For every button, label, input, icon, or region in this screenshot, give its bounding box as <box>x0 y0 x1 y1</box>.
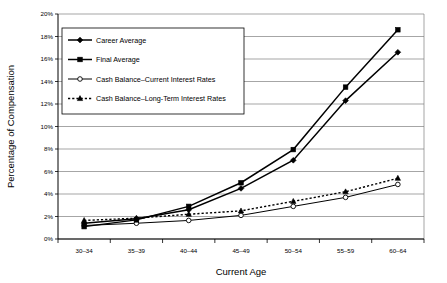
legend: Career AverageFinal AverageCash Balance–… <box>62 28 244 114</box>
data-point-circle <box>343 195 348 200</box>
data-point-triangle <box>238 208 243 213</box>
data-point-square <box>291 147 296 152</box>
y-axis-tick-label: 8% <box>44 145 53 152</box>
y-axis-tick-label: 0% <box>44 235 53 242</box>
y-axis-tick-label: 2% <box>44 213 53 220</box>
x-axis-tick-label: 35–39 <box>128 247 146 254</box>
data-point-circle <box>186 218 191 223</box>
data-point-square <box>396 27 401 32</box>
x-axis-tick-label: 30–34 <box>76 247 94 254</box>
data-point-triangle <box>395 175 400 180</box>
data-point-square <box>186 204 191 209</box>
data-point-square <box>239 180 244 185</box>
y-axis-tick-label: 16% <box>41 55 54 62</box>
data-point-diamond <box>238 186 244 192</box>
x-axis-tick-label: 50–54 <box>285 247 303 254</box>
x-axis-title: Current Age <box>216 266 267 277</box>
data-point-square <box>134 218 139 223</box>
x-axis-tick-label: 60–64 <box>389 247 407 254</box>
x-axis-tick-label: 45–49 <box>232 247 250 254</box>
data-point-circle <box>291 204 296 209</box>
data-point-triangle <box>291 198 296 203</box>
chart-container: 0%2%4%6%8%10%12%14%16%18%20%30–3435–3940… <box>0 0 447 283</box>
data-point-square <box>82 224 87 229</box>
legend-label: Final Average <box>96 55 140 64</box>
legend-label: Career Average <box>96 36 146 45</box>
line-chart: 0%2%4%6%8%10%12%14%16%18%20%30–3435–3940… <box>0 0 447 283</box>
y-axis-tick-label: 18% <box>41 33 54 40</box>
data-point-circle <box>239 213 244 218</box>
y-axis-tick-label: 10% <box>41 123 54 130</box>
cut-off-caption <box>0 277 447 283</box>
legend-label: Cash Balance–Long-Term Interest Rates <box>96 94 226 103</box>
legend-label: Cash Balance–Current Interest Rates <box>96 75 216 84</box>
y-axis-title: Percentage of Compensation <box>5 65 16 188</box>
y-axis-tick-label: 12% <box>41 100 54 107</box>
data-point-circle <box>78 77 83 82</box>
data-point-square <box>78 57 83 62</box>
data-point-circle <box>396 182 401 187</box>
y-axis-tick-label: 20% <box>41 10 54 17</box>
y-axis-tick-label: 4% <box>44 190 53 197</box>
y-axis-tick-label: 14% <box>41 78 54 85</box>
y-axis-tick-label: 6% <box>44 168 53 175</box>
data-point-square <box>343 85 348 90</box>
x-axis-tick-label: 40–44 <box>180 247 198 254</box>
x-axis-tick-label: 55–59 <box>337 247 355 254</box>
